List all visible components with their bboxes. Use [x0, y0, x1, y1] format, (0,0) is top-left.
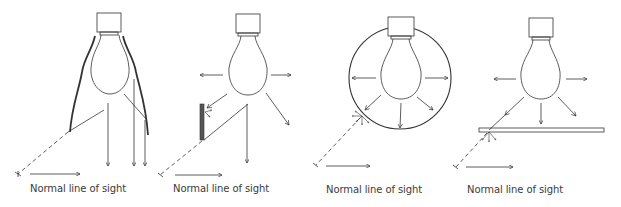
- socket-icon: [236, 14, 260, 33]
- bulb-icon: [229, 36, 267, 95]
- panel-1-reflector: [15, 13, 148, 177]
- reflector-right: [123, 36, 148, 135]
- caption-panel-1: Normal line of sight: [30, 183, 126, 194]
- panel-3-globe: [313, 17, 451, 167]
- panel-2-shield: [158, 14, 291, 177]
- socket-icon: [388, 17, 414, 36]
- bulb-icon: [521, 40, 560, 99]
- bulb-icon: [381, 39, 421, 99]
- lighting-diagram: [0, 0, 621, 207]
- glare-shield: [200, 104, 204, 140]
- socket-icon: [97, 13, 121, 32]
- panel-4-diffuser-panel: [453, 18, 604, 169]
- bulb-icon: [91, 35, 129, 94]
- diffuser-panel: [479, 128, 604, 132]
- caption-panel-3: Normal line of sight: [326, 184, 422, 195]
- caption-panel-4: Normal line of sight: [467, 184, 563, 195]
- caption-panel-2: Normal line of sight: [173, 183, 269, 194]
- socket-icon: [529, 18, 553, 37]
